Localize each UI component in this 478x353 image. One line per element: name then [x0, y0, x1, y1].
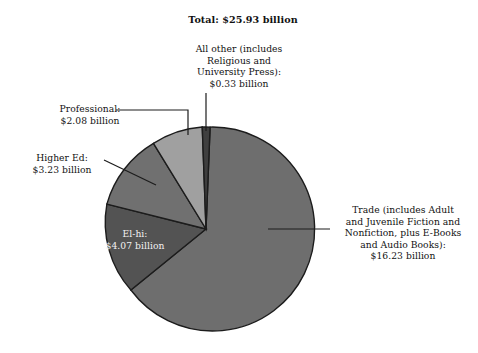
slice-label-professional: Professional: $2.08 billion [30, 103, 150, 126]
slice-label-trade: Trade (includes Adult and Juvenile Ficti… [330, 204, 476, 262]
slice-label-elhi: El-hi: $4.07 billion [76, 228, 194, 251]
chart-canvas: Total: $25.93 billion All other (include… [0, 0, 478, 353]
slice-label-all-other: All other (includes Religious and Univer… [139, 43, 339, 89]
slice-label-higher-ed: Higher Ed: $3.23 billion [6, 152, 118, 175]
chart-total-label: Total: $25.93 billion [148, 14, 338, 26]
